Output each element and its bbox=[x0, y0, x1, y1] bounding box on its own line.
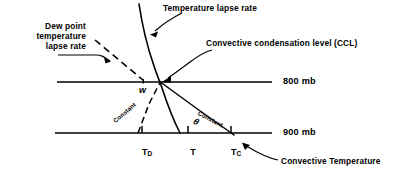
leader-convective-temperature bbox=[248, 147, 278, 160]
leader-ccl bbox=[168, 50, 212, 78]
constant-theta-label: Constant θ bbox=[186, 96, 225, 129]
axis-label-tc: TC bbox=[221, 136, 241, 168]
leader-dew-point bbox=[58, 55, 110, 61]
theta-symbol: θ bbox=[192, 116, 201, 127]
axis-label-tc-sub: C bbox=[237, 150, 242, 157]
constant-theta-word: Constant bbox=[197, 109, 225, 128]
constant-mixing-ratio-word: Constant bbox=[112, 101, 137, 124]
pressure-level-label-800: 800 mb bbox=[283, 76, 316, 87]
axis-label-t: T bbox=[178, 136, 198, 168]
arrowhead-ccl bbox=[162, 76, 171, 83]
axis-label-td-sub: D bbox=[148, 150, 153, 157]
pressure-level-label-900: 900 mb bbox=[283, 127, 316, 138]
convective-temperature-label: Convective Temperature bbox=[281, 157, 381, 167]
axis-label-t-base: T bbox=[190, 147, 196, 157]
arrowhead-convective-temperature bbox=[242, 143, 250, 151]
axis-label-td: TD bbox=[132, 136, 152, 168]
dew-point-lapse-rate-curve bbox=[95, 40, 143, 80]
temperature-lapse-rate-curve bbox=[139, 4, 180, 133]
temperature-lapse-rate-label: Temperature lapse rate bbox=[163, 4, 257, 14]
ccl-diagram: Dew point temperature lapse rate Tempera… bbox=[0, 0, 406, 182]
arrowhead-temperature-lapse-rate bbox=[150, 32, 158, 38]
leader-temperature-lapse-rate bbox=[155, 13, 182, 31]
ccl-label: Convective condensation level (CCL) bbox=[206, 39, 357, 49]
dew-point-lapse-rate-label: Dew point temperature lapse rate bbox=[0, 22, 86, 51]
mixing-ratio-symbol: w bbox=[139, 85, 146, 96]
